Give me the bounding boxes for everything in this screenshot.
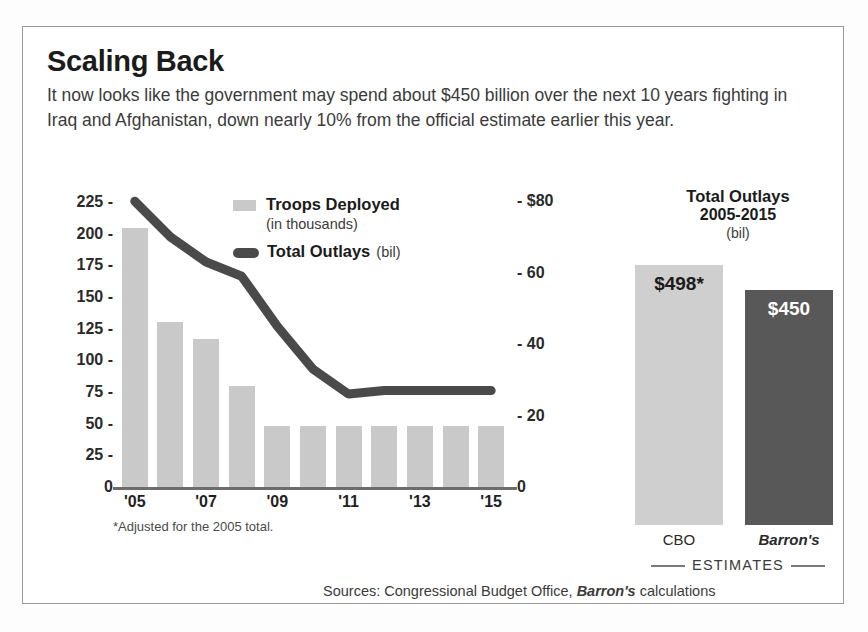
- troops-bar-2015: [478, 426, 504, 487]
- y-tick-left-25: 25 -: [85, 446, 113, 464]
- y-tick-left-75: 75 -: [85, 383, 113, 401]
- x-tick-2005: '05: [124, 493, 146, 511]
- y-tick-right-80: - $80: [517, 192, 553, 210]
- x-tick-2015: '15: [480, 493, 502, 511]
- bar-label-cbo: CBO: [633, 531, 725, 548]
- side-panel-unit: (bil): [623, 225, 853, 241]
- bar-label-barrons: Barron's: [743, 531, 835, 548]
- troops-bar-2007: [193, 339, 219, 487]
- y-tick-right-0: 0: [517, 478, 526, 496]
- bar-value-cbo: $498*: [635, 273, 723, 295]
- y-axis-left: 025 -50 -75 -100 -125 -150 -175 -200 -22…: [47, 187, 113, 487]
- troops-bar-2008: [229, 386, 255, 487]
- sources-suffix: calculations: [636, 583, 716, 599]
- side-panel-title: Total Outlays: [623, 187, 853, 206]
- bar-value-barrons: $450: [745, 298, 833, 320]
- troops-bar-2006: [157, 322, 183, 487]
- side-panel-bars: $498* $450: [633, 265, 843, 525]
- y-tick-left-225: 225 -: [77, 193, 113, 211]
- page-title: Scaling Back: [47, 45, 224, 78]
- deck-text: It now looks like the government may spe…: [47, 83, 807, 133]
- sources-line: Sources: Congressional Budget Office, Ba…: [323, 583, 715, 599]
- x-tick-2007: '07: [195, 493, 217, 511]
- side-panel-years: 2005-2015: [623, 206, 853, 224]
- dash-right-icon: [791, 565, 825, 567]
- y-tick-left-100: 100 -: [77, 351, 113, 369]
- y-tick-right-40: - 40: [517, 335, 545, 353]
- chart-frame: Scaling Back It now looks like the gover…: [22, 26, 844, 604]
- x-tick-2011: '11: [338, 493, 359, 511]
- troops-bar-2010: [300, 426, 326, 487]
- infographic-page: Scaling Back It now looks like the gover…: [0, 0, 868, 632]
- chart-footnote: *Adjusted for the 2005 total.: [113, 519, 273, 534]
- sources-italic: Barron's: [577, 583, 636, 599]
- troops-bar-2009: [264, 426, 290, 487]
- troops-bar-2005: [122, 228, 148, 487]
- dash-left-icon: [651, 565, 685, 567]
- y-tick-right-20: - 20: [517, 407, 545, 425]
- plot-area: [117, 187, 509, 487]
- bar-barrons: $450: [745, 290, 833, 525]
- estimates-label: ESTIMATES: [692, 557, 784, 573]
- y-tick-left-125: 125 -: [77, 320, 113, 338]
- x-axis-line: [113, 487, 517, 490]
- sources-prefix: Sources: Congressional Budget Office,: [323, 583, 577, 599]
- y-tick-left-50: 50 -: [85, 415, 113, 433]
- side-panel: Total Outlays 2005-2015 (bil) $498* $450…: [623, 187, 853, 587]
- y-tick-right-60: - 60: [517, 264, 545, 282]
- y-tick-left-200: 200 -: [77, 225, 113, 243]
- troops-bar-2013: [407, 426, 433, 487]
- troops-bar-2012: [371, 426, 397, 487]
- y-axis-right: 0- 20- 40- 60- $80: [517, 187, 577, 487]
- y-tick-left-175: 175 -: [77, 256, 113, 274]
- troops-bar-2014: [443, 426, 469, 487]
- x-tick-2009: '09: [267, 493, 289, 511]
- estimates-footer: ESTIMATES: [623, 557, 853, 573]
- x-tick-2013: '13: [409, 493, 431, 511]
- main-chart: 025 -50 -75 -100 -125 -150 -175 -200 -22…: [47, 187, 577, 547]
- troops-bar-2011: [336, 426, 362, 487]
- y-tick-left-150: 150 -: [77, 288, 113, 306]
- bar-cbo: $498*: [635, 265, 723, 525]
- y-tick-left-0: 0: [104, 478, 113, 496]
